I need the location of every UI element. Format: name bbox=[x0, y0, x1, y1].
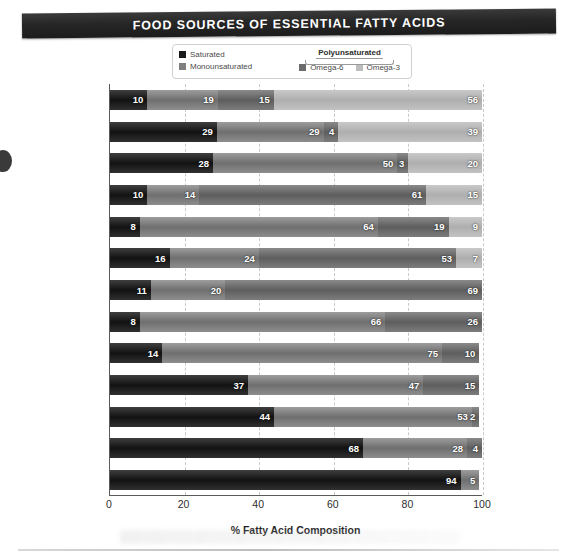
x-tick-20: 20 bbox=[178, 498, 190, 510]
bar-value-label: 28 bbox=[199, 158, 214, 169]
omega3-swatch-icon bbox=[356, 64, 363, 71]
bar-segment-saturated: 8 bbox=[110, 217, 140, 237]
legend: Saturated Monounsaturated Polyunsaturate… bbox=[172, 44, 412, 79]
bar-segment-monounsaturated: 24 bbox=[170, 248, 259, 268]
bar-segment-saturated: 28 bbox=[110, 153, 213, 173]
bar-segment-monounsaturated: 50 bbox=[213, 153, 397, 173]
bar-row: Ground beef44532 bbox=[110, 407, 482, 427]
bar-segment-omega6: 26 bbox=[385, 312, 482, 332]
bar-segment-monounsaturated: 28 bbox=[363, 438, 467, 458]
bar-value-label: 4 bbox=[329, 126, 338, 137]
monounsaturated-swatch-icon bbox=[179, 63, 186, 70]
bar-row: Flaxseed oil10191556 bbox=[110, 90, 482, 110]
bar-segment-omega3: 39 bbox=[338, 122, 482, 142]
bar-row: Coconut945 bbox=[110, 470, 482, 490]
bar-value-label: 29 bbox=[309, 126, 324, 137]
legend-label-omega3: Omega-3 bbox=[367, 63, 400, 72]
bar-row: Tuna (Albacore)2929439 bbox=[110, 122, 482, 142]
bar-value-label: 69 bbox=[467, 285, 482, 296]
bar-value-label: 7 bbox=[473, 253, 482, 264]
bar-value-label: 19 bbox=[203, 94, 218, 105]
omega6-swatch-icon bbox=[299, 64, 306, 71]
bar-segment-monounsaturated: 14 bbox=[147, 185, 199, 205]
bar-value-label: 19 bbox=[434, 221, 449, 232]
bar-row: Almonds86626 bbox=[110, 312, 482, 332]
bar-segment-omega6: 15 bbox=[218, 90, 274, 110]
bar-value-label: 53 bbox=[441, 253, 456, 264]
bar-segment-omega6: 4 bbox=[467, 438, 482, 458]
bar-value-label: 28 bbox=[453, 443, 468, 454]
legend-item-saturated: Saturated bbox=[179, 50, 294, 59]
bar-segment-saturated: 16 bbox=[110, 248, 170, 268]
bar-segment-monounsaturated: 66 bbox=[140, 312, 386, 332]
bar-value-label: 16 bbox=[155, 253, 170, 264]
bar-segment-saturated: 37 bbox=[110, 375, 248, 395]
bar-segment-omega3: 15 bbox=[426, 185, 482, 205]
bar-value-label: 26 bbox=[467, 316, 482, 327]
bar-segment-monounsaturated: 19 bbox=[147, 90, 218, 110]
bar-value-label: 15 bbox=[465, 380, 480, 391]
bar-value-label: 5 bbox=[470, 475, 479, 486]
chart-area: Flaxseed oil10191556Tuna (Albacore)29294… bbox=[0, 82, 577, 502]
bar-value-label: 66 bbox=[371, 316, 386, 327]
bar-value-label: 8 bbox=[130, 316, 139, 327]
bar-segment-saturated: 94 bbox=[110, 470, 461, 490]
bar-value-label: 61 bbox=[412, 189, 427, 200]
bar-segment-saturated: 14 bbox=[110, 343, 162, 363]
bar-row: Canola oil864199 bbox=[110, 217, 482, 237]
bar-segment-omega6: 61 bbox=[199, 185, 426, 205]
bar-segment-saturated: 44 bbox=[110, 407, 274, 427]
bar-row: Eggs374715 bbox=[110, 375, 482, 395]
bar-segment-monounsaturated: 75 bbox=[162, 343, 442, 363]
bar-value-label: 39 bbox=[467, 126, 482, 137]
chart-title-banner: FOOD SOURCES OF ESSENTIAL FATTY ACIDS bbox=[22, 8, 556, 38]
bar-value-label: 11 bbox=[137, 285, 151, 296]
bar-segment-saturated: 10 bbox=[110, 90, 147, 110]
x-tick-40: 40 bbox=[252, 498, 264, 510]
bar-value-label: 10 bbox=[133, 189, 148, 200]
bar-segment-omega6: 3 bbox=[397, 153, 408, 173]
bar-value-label: 10 bbox=[465, 348, 480, 359]
bar-segment-saturated: 29 bbox=[110, 122, 217, 142]
legend-item-omega3: Omega-3 bbox=[356, 63, 400, 72]
bar-segment-omega3: 56 bbox=[274, 90, 482, 110]
bar-segment-omega6: 4 bbox=[324, 122, 339, 142]
bar-segment-omega3: 7 bbox=[456, 248, 482, 268]
legend-label-omega6: Omega-6 bbox=[310, 63, 343, 72]
bar-value-label: 37 bbox=[233, 380, 248, 391]
x-axis: 020406080100 bbox=[109, 498, 482, 518]
bar-value-label: 20 bbox=[211, 285, 226, 296]
bar-value-label: 47 bbox=[409, 380, 424, 391]
bar-value-label: 9 bbox=[473, 221, 482, 232]
bar-row: Soybean oil1624537 bbox=[110, 248, 482, 268]
bar-value-label: 14 bbox=[148, 348, 163, 359]
bar-value-label: 10 bbox=[133, 94, 148, 105]
page-title: FOOD SOURCES OF ESSENTIAL FATTY ACIDS bbox=[133, 15, 446, 32]
legend-item-omega6: Omega-6 bbox=[299, 63, 343, 72]
bar-value-label: 75 bbox=[427, 348, 442, 359]
bar-segment-monounsaturated: 47 bbox=[248, 375, 423, 395]
bar-segment-omega6: 2 bbox=[472, 407, 479, 427]
bar-value-label: 29 bbox=[202, 126, 217, 137]
saturated-swatch-icon bbox=[179, 51, 186, 58]
bar-segment-monounsaturated: 29 bbox=[217, 122, 324, 142]
plot-region: Flaxseed oil10191556Tuna (Albacore)29294… bbox=[109, 84, 482, 496]
bar-row: Sunflower oil112069 bbox=[110, 280, 482, 300]
bar-value-label: 14 bbox=[185, 189, 200, 200]
bar-value-label: 68 bbox=[348, 443, 363, 454]
bar-value-label: 3 bbox=[399, 158, 408, 169]
bar-value-label: 15 bbox=[467, 189, 482, 200]
bar-value-label: 8 bbox=[130, 221, 139, 232]
scan-artifact bbox=[120, 530, 460, 544]
bar-segment-monounsaturated: 53 bbox=[274, 407, 472, 427]
x-tick-100: 100 bbox=[473, 498, 491, 510]
bar-segment-saturated: 8 bbox=[110, 312, 140, 332]
bar-value-label: 64 bbox=[363, 221, 378, 232]
x-tick-60: 60 bbox=[327, 498, 339, 510]
bar-row: Salmon (Chinook)2850320 bbox=[110, 153, 482, 173]
bar-value-label: 94 bbox=[446, 475, 461, 486]
bar-value-label: 24 bbox=[244, 253, 259, 264]
bar-segment-monounsaturated: 64 bbox=[140, 217, 378, 237]
bar-value-label: 56 bbox=[467, 94, 482, 105]
bar-segment-monounsaturated: 5 bbox=[461, 470, 480, 490]
